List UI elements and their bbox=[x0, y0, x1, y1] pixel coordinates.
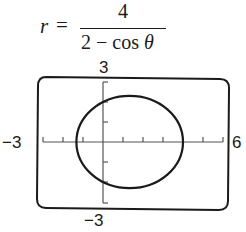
plot-area bbox=[0, 0, 246, 232]
y-max-label: 3 bbox=[99, 59, 108, 76]
x-min-label: −3 bbox=[2, 134, 21, 151]
x-axis bbox=[43, 137, 223, 142]
x-max-label: 6 bbox=[232, 134, 241, 151]
y-min-label: −3 bbox=[84, 212, 103, 229]
